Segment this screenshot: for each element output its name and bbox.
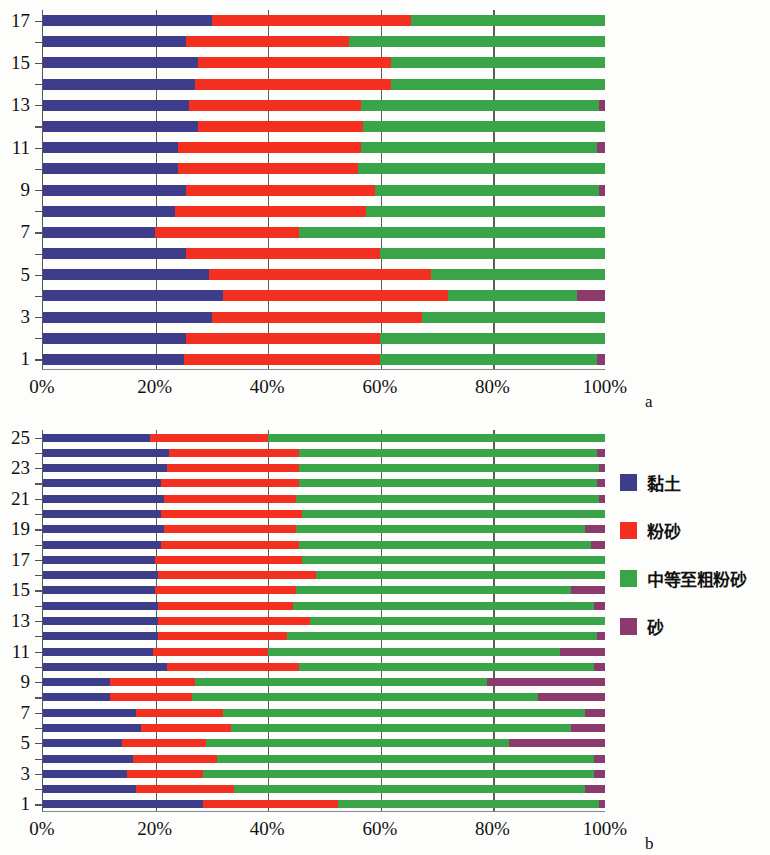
bar-segment <box>192 693 538 701</box>
y-tick <box>35 514 42 515</box>
bar-row <box>43 269 605 280</box>
bar-segment <box>43 617 158 625</box>
bar-segment <box>43 36 186 47</box>
legend-item: 粉砂 <box>620 518 770 543</box>
y-axis-label-3: 3 <box>21 307 31 326</box>
y-tick <box>35 359 42 360</box>
bar-segment <box>391 57 605 68</box>
y-axis-label-9: 9 <box>21 672 31 691</box>
bar-segment <box>591 541 605 549</box>
bar-row <box>43 312 605 323</box>
y-tick <box>35 545 42 546</box>
bar-row <box>43 206 605 217</box>
bar-segment <box>363 121 605 132</box>
bar-segment <box>43 354 184 365</box>
bar-segment <box>43 248 186 259</box>
bar-segment <box>43 79 195 90</box>
bar-segment <box>43 693 110 701</box>
bar-segment <box>380 354 596 365</box>
bar-segment <box>161 541 299 549</box>
x-axis-label-0: 0% <box>12 819 72 838</box>
bar-row <box>43 333 605 344</box>
bar-row <box>43 185 605 196</box>
bar-segment <box>268 434 605 442</box>
bar-segment <box>366 206 605 217</box>
bar-segment <box>422 312 605 323</box>
bar-segment <box>161 479 299 487</box>
y-tick <box>35 84 42 85</box>
bar-segment <box>178 142 361 153</box>
bar-segment <box>287 632 596 640</box>
bar-row <box>43 227 605 238</box>
bar-segment <box>302 556 605 564</box>
bar-segment <box>411 15 605 26</box>
y-axis-label-5: 5 <box>21 733 31 752</box>
y-tick <box>35 438 42 439</box>
panel-a: 1357911131517 0%20%40%60%80%100% a <box>0 0 770 415</box>
panel-a-plot-area <box>42 10 605 370</box>
bar-row <box>43 142 605 153</box>
bar-row <box>43 57 605 68</box>
bar-segment <box>391 79 605 90</box>
bar-row <box>43 464 605 472</box>
bar-segment <box>195 79 392 90</box>
bar-segment <box>43 709 136 717</box>
bar-segment <box>155 556 301 564</box>
y-tick <box>35 105 42 106</box>
bar-row <box>43 739 605 747</box>
bar-segment <box>43 602 158 610</box>
y-axis-label-3: 3 <box>21 764 31 783</box>
bar-segment <box>594 663 605 671</box>
bar-segment <box>43 663 167 671</box>
bar-segment <box>43 290 223 301</box>
bar-segment <box>184 354 381 365</box>
y-tick <box>35 697 42 698</box>
bar-segment <box>158 617 310 625</box>
y-tick <box>35 560 42 561</box>
y-tick <box>35 453 42 454</box>
panel-b-plot-area <box>42 430 605 812</box>
bar-segment <box>43 100 189 111</box>
bar-segment <box>599 100 605 111</box>
bar-row <box>43 525 605 533</box>
bar-segment <box>43 724 141 732</box>
y-axis-label-9: 9 <box>21 180 31 199</box>
bar-segment <box>198 121 364 132</box>
bar-segment <box>599 495 605 503</box>
y-tick <box>35 42 42 43</box>
bar-segment <box>380 248 605 259</box>
y-axis-label-21: 21 <box>11 489 30 508</box>
bar-segment <box>299 464 600 472</box>
bar-segment <box>155 586 296 594</box>
bar-segment <box>268 648 560 656</box>
bar-segment <box>43 479 161 487</box>
y-axis-label-17: 17 <box>11 550 30 569</box>
y-tick <box>35 190 42 191</box>
y-tick <box>35 483 42 484</box>
bar-row <box>43 632 605 640</box>
bar-segment <box>310 617 605 625</box>
bar-row <box>43 693 605 701</box>
y-tick <box>35 667 42 668</box>
bar-segment <box>43 142 178 153</box>
y-axis-label-1: 1 <box>21 349 31 368</box>
y-tick <box>35 275 42 276</box>
bar-segment <box>448 290 577 301</box>
y-tick <box>35 148 42 149</box>
bar-segment <box>43 678 110 686</box>
bar-segment <box>299 227 605 238</box>
bar-segment <box>43 632 158 640</box>
y-axis-label-11: 11 <box>12 642 30 661</box>
bar-segment <box>299 541 591 549</box>
bar-segment <box>338 800 599 808</box>
bar-segment <box>43 525 164 533</box>
bar-row <box>43 79 605 90</box>
bar-segment <box>296 495 600 503</box>
bar-row <box>43 121 605 132</box>
y-tick <box>35 590 42 591</box>
panel-a-label: a <box>645 392 653 412</box>
bar-segment <box>186 36 349 47</box>
bar-segment <box>43 755 133 763</box>
bar-row <box>43 434 605 442</box>
bar-segment <box>43 541 161 549</box>
